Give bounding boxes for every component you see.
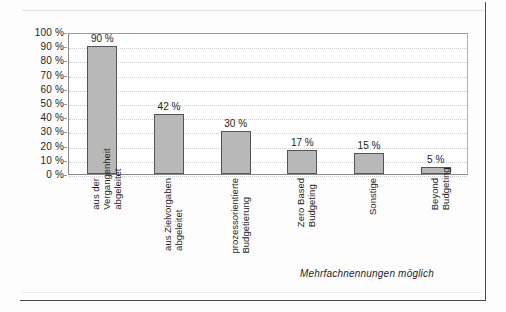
page-frame-right-border <box>485 2 486 301</box>
x-axis-label-line: Vergangenheit <box>101 148 112 209</box>
y-axis-tick-label: 80 % <box>20 56 64 66</box>
x-axis-label-line: Zero Based <box>295 178 306 227</box>
y-axis-tick-labels: 0 %10 %20 %30 %40 %50 %60 %70 %80 %90 %1… <box>20 33 64 175</box>
y-axis-tick-mark <box>64 90 67 91</box>
x-axis-label-slot: BeyondBudgeting <box>401 178 468 278</box>
y-axis-tick-mark <box>64 104 67 105</box>
x-axis-label-line: abgeleitet <box>173 210 184 251</box>
y-axis-tick-mark <box>64 132 67 133</box>
y-axis-tick-label: 60 % <box>20 85 64 95</box>
x-axis-label-line: Budgeting <box>440 167 451 210</box>
x-axis-label-slot: Sonstige <box>335 178 402 278</box>
bar[interactable] <box>287 150 317 174</box>
bar[interactable] <box>154 114 184 174</box>
y-axis-tick-label: 0 % <box>20 170 64 180</box>
y-axis-tick-label: 30 % <box>20 127 64 137</box>
bar-slot: 30 % <box>202 34 269 174</box>
x-axis-label-line: aus Zielvorgaben <box>162 178 173 251</box>
x-axis-label-line: Sonstige <box>367 178 378 215</box>
chart-annotation: Mehrfachnennungen möglich <box>300 268 434 279</box>
y-axis-tick-label: 50 % <box>20 99 64 109</box>
chart-page: 0 %10 %20 %30 %40 %50 %60 %70 %80 %90 %1… <box>0 0 506 312</box>
y-axis-tick-label: 100 % <box>20 28 64 38</box>
y-axis-tick-mark <box>64 175 67 176</box>
bar-value-label: 42 % <box>158 102 181 112</box>
y-axis-tick-mark <box>64 33 67 34</box>
page-frame-top-border <box>22 10 484 11</box>
bar-value-label: 15 % <box>358 141 381 151</box>
x-axis-category-labels: aus derVergangenheitabgeleitetaus Zielvo… <box>68 178 468 278</box>
x-axis-label-slot: aus Zielvorgabenabgeleitet <box>135 178 202 278</box>
y-axis-tick-label: 90 % <box>20 42 64 52</box>
bar-value-label: 17 % <box>291 138 314 148</box>
x-axis-category-label: BeyondBudgeting <box>429 178 440 210</box>
y-axis-tick-mark <box>64 147 67 148</box>
y-axis-tick-mark <box>64 47 67 48</box>
bar-slot: 42 % <box>136 34 203 174</box>
bar[interactable] <box>221 131 251 174</box>
bar[interactable] <box>354 153 384 174</box>
y-axis-tick-label: 20 % <box>20 142 64 152</box>
page-frame-bottom-border <box>20 300 486 301</box>
x-axis-label-line: abgeleitet <box>112 168 123 209</box>
bar-value-label: 5 % <box>427 155 444 165</box>
x-axis-label-line: Beyond <box>429 178 440 210</box>
gridline <box>69 176 467 177</box>
bar-slot: 17 % <box>269 34 336 174</box>
y-axis-tick-label: 40 % <box>20 113 64 123</box>
x-axis-label-line: Budgeting <box>306 184 317 227</box>
x-axis-category-label: prozessorientierteBudgetierung <box>229 178 240 254</box>
bar-value-label: 30 % <box>224 119 247 129</box>
plot-area: 90 %42 %30 %17 %15 %5 % <box>68 33 468 175</box>
bar-slot: 5 % <box>402 34 469 174</box>
y-axis-tick-mark <box>64 161 67 162</box>
x-axis-label-slot: Zero BasedBudgeting <box>268 178 335 278</box>
x-axis-category-label: Sonstige <box>367 178 378 215</box>
x-axis-category-label: Zero BasedBudgeting <box>295 178 306 227</box>
y-axis-tick-label: 10 % <box>20 156 64 166</box>
x-axis-category-label: aus derVergangenheitabgeleitet <box>90 178 101 210</box>
x-axis-label-slot: aus derVergangenheitabgeleitet <box>68 178 135 278</box>
x-axis-label-line: aus der <box>90 178 101 210</box>
x-axis-category-label: aus Zielvorgabenabgeleitet <box>162 178 173 251</box>
page-frame-inner-border <box>22 292 482 293</box>
bar-slot: 15 % <box>336 34 403 174</box>
x-axis-label-line: Budgetierung <box>240 197 251 254</box>
x-axis-label-slot: prozessorientierteBudgetierung <box>201 178 268 278</box>
bar-value-label: 90 % <box>91 34 114 44</box>
y-axis-tick-mark <box>64 61 67 62</box>
x-axis-label-line: prozessorientierte <box>229 178 240 254</box>
y-axis-tick-mark <box>64 118 67 119</box>
y-axis-tick-label: 70 % <box>20 71 64 81</box>
y-axis-tick-mark <box>64 76 67 77</box>
